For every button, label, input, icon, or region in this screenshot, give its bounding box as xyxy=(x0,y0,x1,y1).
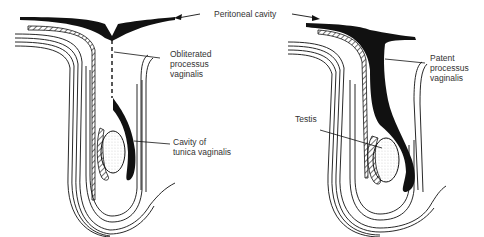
pointer-obliterated xyxy=(114,52,160,58)
left-panel-obliterated xyxy=(15,14,200,237)
pointer-patent xyxy=(385,59,425,63)
label-obliterated-processus: Obliterated processus vaginalis xyxy=(170,49,212,79)
label-patent-processus: Patent processus vaginalis xyxy=(430,53,469,83)
label-testis: Testis xyxy=(295,114,317,124)
label-peritoneal-cavity: Peritoneal cavity xyxy=(214,9,276,19)
arrow-head-left xyxy=(174,14,182,20)
testis-left xyxy=(101,131,125,173)
right-panel-patent xyxy=(288,14,446,237)
hatched-layer-left xyxy=(28,26,95,200)
testis-right xyxy=(373,138,399,182)
arrow-head-right xyxy=(312,15,320,21)
pointer-cavity xyxy=(134,141,170,144)
label-cavity-tunica: Cavity of tunica vaginalis xyxy=(173,137,231,157)
diagram-canvas xyxy=(0,0,484,237)
